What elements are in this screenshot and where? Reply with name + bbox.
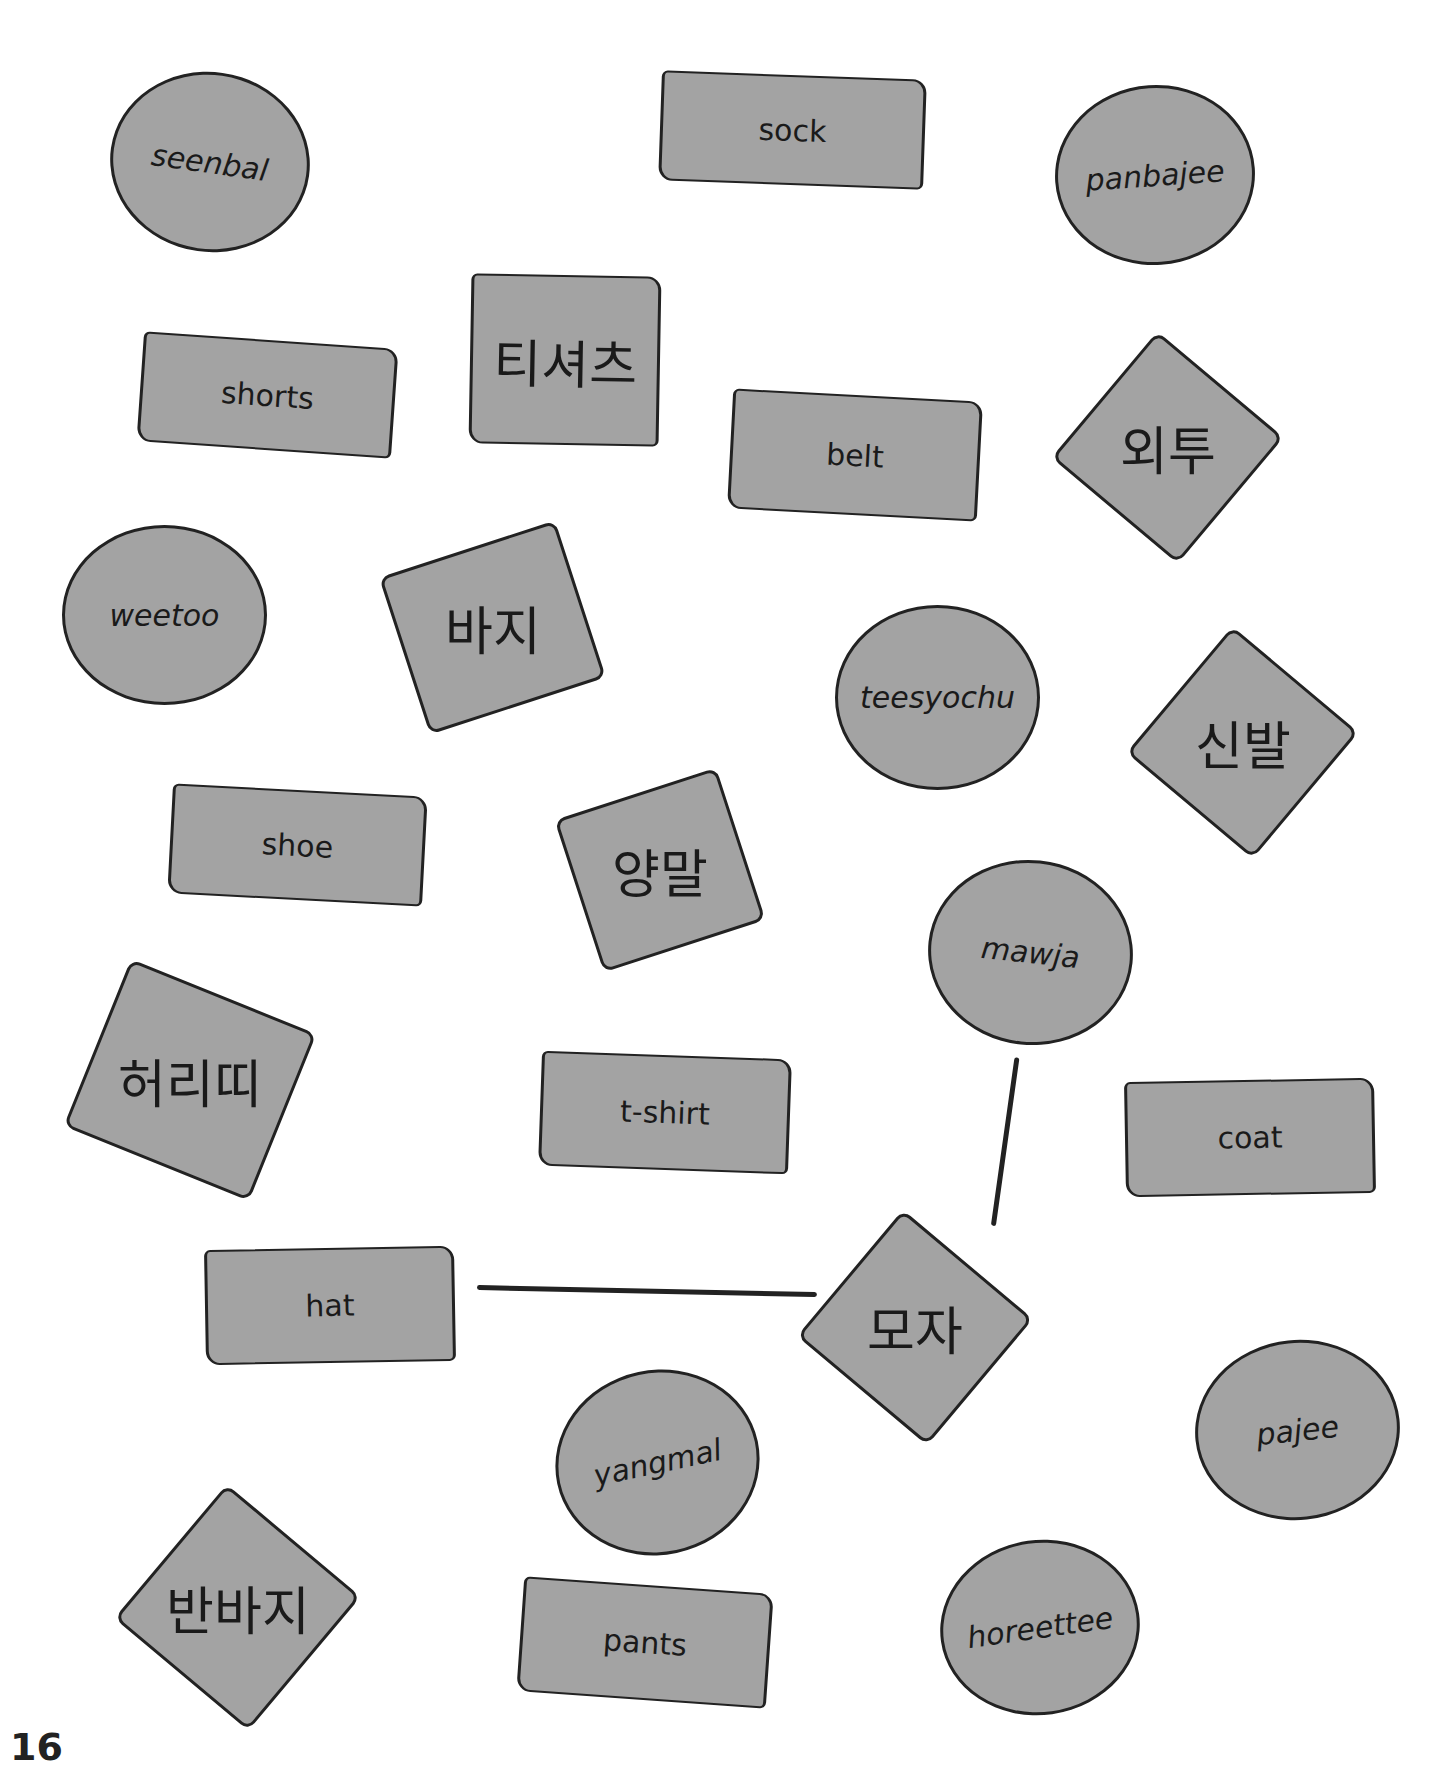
word-card-pants[interactable]: pants	[516, 1576, 773, 1708]
word-card-label: hat	[305, 1288, 355, 1324]
word-card-banbaji[interactable]: 반바지	[114, 1484, 361, 1731]
word-card-label: 신발	[1195, 705, 1291, 780]
word-card-label: 허리띠	[118, 1043, 262, 1118]
word-card-label: pajee	[1255, 1408, 1341, 1451]
page-number: 16	[10, 1725, 63, 1769]
word-card-label: sock	[758, 111, 827, 148]
word-card-label: horeettee	[965, 1600, 1116, 1655]
word-card-yangmal_rom[interactable]: yangmal	[538, 1351, 777, 1575]
word-card-tisyeocheu[interactable]: 티셔츠	[469, 273, 662, 446]
word-card-label: 모자	[867, 1290, 963, 1365]
word-card-tshirt[interactable]: t-shirt	[538, 1051, 792, 1175]
word-card-yangmal[interactable]: 양말	[554, 768, 765, 973]
word-card-coat[interactable]: coat	[1124, 1078, 1376, 1197]
connector-line-mawja-moja	[991, 1057, 1020, 1226]
word-card-label: shoe	[261, 826, 334, 865]
word-card-moja[interactable]: 모자	[797, 1210, 1033, 1446]
word-card-label: pants	[602, 1622, 688, 1663]
word-card-label: weetoo	[110, 598, 220, 633]
word-card-seenbal[interactable]: seenbal	[98, 59, 321, 265]
word-card-mawja[interactable]: mawja	[919, 850, 1142, 1055]
word-card-label: coat	[1217, 1119, 1283, 1155]
word-card-shorts[interactable]: shorts	[136, 331, 398, 459]
word-card-pajee[interactable]: pajee	[1186, 1330, 1409, 1530]
word-card-weetoo[interactable]: weetoo	[62, 525, 267, 705]
word-card-oetu[interactable]: 외투	[1051, 331, 1283, 563]
word-card-heoritti[interactable]: 허리띠	[64, 959, 317, 1201]
word-card-sinbal[interactable]: 신발	[1126, 626, 1358, 858]
word-card-label: 티셔츠	[492, 321, 637, 399]
word-card-label: 바지	[445, 590, 541, 665]
word-card-label: panbajee	[1084, 153, 1225, 198]
word-card-label: 양말	[612, 833, 708, 908]
word-card-label: mawja	[980, 930, 1082, 975]
word-card-label: yangmal	[590, 1432, 725, 1493]
word-card-sock[interactable]: sock	[658, 70, 927, 189]
word-card-belt[interactable]: belt	[727, 389, 983, 522]
word-card-label: shorts	[220, 374, 315, 415]
word-card-label: 외투	[1120, 410, 1216, 485]
word-card-hat[interactable]: hat	[204, 1246, 456, 1365]
connector-line-hat-moja	[477, 1285, 817, 1297]
word-card-label: t-shirt	[620, 1093, 711, 1131]
word-card-horeettee[interactable]: horeettee	[929, 1527, 1151, 1728]
word-card-label: seenbal	[149, 137, 270, 188]
word-card-shoe[interactable]: shoe	[167, 783, 427, 906]
word-card-label: belt	[825, 436, 884, 474]
word-card-label: teesyochu	[860, 680, 1015, 715]
word-card-label: 반바지	[166, 1570, 310, 1645]
word-card-teesyochu[interactable]: teesyochu	[835, 605, 1040, 790]
word-card-panbajee[interactable]: panbajee	[1049, 78, 1261, 272]
word-card-baji[interactable]: 바지	[379, 520, 606, 734]
